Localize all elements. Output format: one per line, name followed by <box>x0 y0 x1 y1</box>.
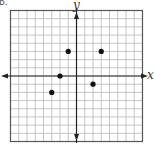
x-axis-left-arrow-icon <box>1 74 8 79</box>
x-axis-label: x <box>147 69 154 81</box>
data-point <box>66 49 71 54</box>
data-point <box>49 90 54 95</box>
data-point <box>57 73 62 78</box>
y-axis-down-arrow-icon <box>74 134 79 141</box>
data-point <box>90 82 95 87</box>
y-axis-label: y <box>73 0 80 11</box>
coordinate-grid <box>0 0 155 146</box>
y-axis-up-arrow-icon <box>74 12 79 19</box>
data-point <box>99 49 104 54</box>
